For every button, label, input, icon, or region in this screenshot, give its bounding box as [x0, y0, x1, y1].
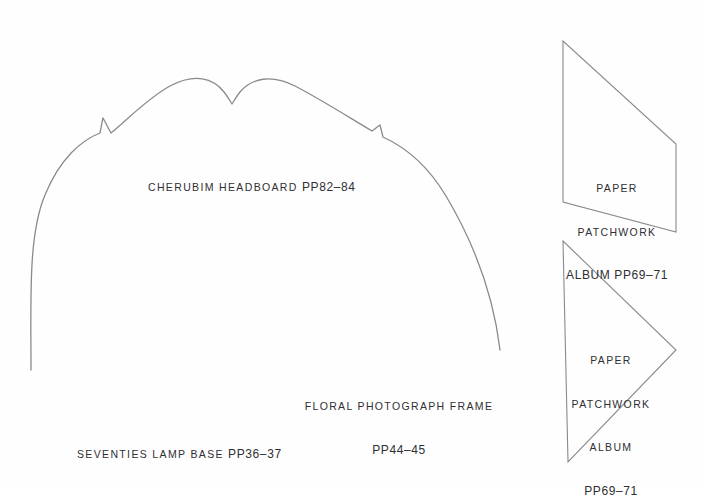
page-reference: PP36–37 [228, 447, 282, 461]
caption-paper-patchwork-album-bottom: PAPER PATCHWORK ALBUM PP69–71 [572, 324, 651, 499]
page-reference: PP82–84 [302, 180, 356, 194]
caption-line: FLORAL PHOTOGRAPH FRAME [305, 399, 494, 414]
caption-line: CHERUBIM HEADBOARD PP82–84 [148, 180, 356, 195]
caption-line: ALBUM [572, 440, 651, 455]
caption-line: PAPER [572, 353, 651, 368]
caption-paper-patchwork-album-top: PAPER PATCHWORK ALBUM PP69–71 [566, 152, 668, 312]
page-reference: PP44–45 [305, 443, 494, 458]
cherubim-headboard-outline-path [31, 78, 500, 370]
caption-line: PATCHWORK [566, 225, 668, 240]
caption-seventies-lamp-base: SEVENTIES LAMP BASE PP36–37 [77, 418, 282, 491]
caption-line: SEVENTIES LAMP BASE PP36–37 [77, 447, 282, 462]
caption-floral-photograph-frame: FLORAL PHOTOGRAPH FRAME PP44–45 [305, 370, 494, 486]
page-reference: PP69–71 [572, 484, 651, 499]
page-reference: ALBUM PP69–71 [566, 268, 668, 283]
caption-line: PAPER [566, 181, 668, 196]
caption-cherubim-headboard: CHERUBIM HEADBOARD PP82–84 [148, 151, 356, 224]
caption-line: PATCHWORK [572, 397, 651, 412]
